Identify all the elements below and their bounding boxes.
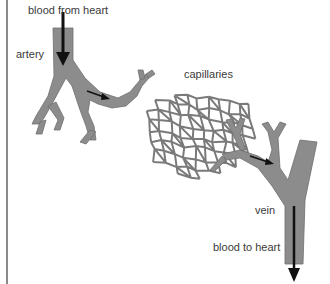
artery-vessel [32, 28, 155, 144]
label-vein: vein [255, 205, 275, 216]
label-artery: artery [16, 49, 44, 60]
label-blood-to-heart: blood to heart [213, 242, 280, 253]
label-blood-from-heart: blood from heart [28, 5, 108, 16]
capillary-diagram [0, 0, 330, 284]
label-capillaries: capillaries [184, 69, 233, 80]
